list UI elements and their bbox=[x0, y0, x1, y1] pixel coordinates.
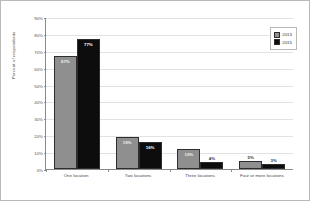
x-tick-mark bbox=[231, 169, 232, 172]
bar-value-label: 77% bbox=[84, 42, 93, 47]
y-tick-label: 20% bbox=[13, 134, 43, 139]
y-tick-label: 30% bbox=[13, 117, 43, 122]
bar-value-label: 4% bbox=[209, 156, 215, 161]
x-tick-label: One location bbox=[45, 173, 107, 178]
bar-value-label: 67% bbox=[61, 59, 70, 64]
x-tick-mark bbox=[170, 169, 171, 172]
bar-value-label: 16% bbox=[146, 145, 155, 150]
y-tick-label: 90% bbox=[13, 16, 43, 21]
legend-swatch-icon bbox=[274, 32, 280, 38]
bar-2015-3: 4% bbox=[200, 162, 223, 169]
legend-item[interactable]: 2015 bbox=[274, 39, 292, 45]
x-axis-labels: One locationTwo locationsThree locations… bbox=[45, 173, 293, 178]
bar-group: 19%16% bbox=[108, 18, 170, 169]
legend-label: 2013 bbox=[282, 32, 292, 37]
bar-value-label: 5% bbox=[247, 155, 253, 160]
x-tick-label: Three locations bbox=[169, 173, 231, 178]
y-tick-label: 70% bbox=[13, 49, 43, 54]
bar-value-label: 3% bbox=[270, 158, 276, 163]
bar-2015-2: 16% bbox=[139, 142, 162, 169]
x-tick-label: Two locations bbox=[107, 173, 169, 178]
y-tick-label: 60% bbox=[13, 66, 43, 71]
bar-groups: 67%77%19%16%12%4%5%3% bbox=[46, 18, 293, 169]
bar-2013-4: 5% bbox=[239, 161, 262, 169]
bar-group: 67%77% bbox=[46, 18, 108, 169]
x-tick-mark bbox=[46, 169, 47, 172]
bar-2013-2: 19% bbox=[116, 137, 139, 169]
bar-chart: Percent of respondents 0%10%20%30%40%50%… bbox=[0, 0, 310, 201]
y-tick-label: 50% bbox=[13, 83, 43, 88]
bar-2015-4: 3% bbox=[262, 164, 285, 169]
bar-value-label: 12% bbox=[184, 152, 193, 157]
y-tick-label: 10% bbox=[13, 151, 43, 156]
x-tick-label: Four or more locations bbox=[231, 173, 293, 178]
y-tick-label: 80% bbox=[13, 32, 43, 37]
y-tick-label: 40% bbox=[13, 100, 43, 105]
bar-value-label: 19% bbox=[123, 140, 132, 145]
y-tick-label: 0% bbox=[13, 168, 43, 173]
bar-2013-3: 12% bbox=[177, 149, 200, 169]
legend-label: 2015 bbox=[282, 40, 292, 45]
chart-legend: 20132015 bbox=[270, 27, 297, 50]
bar-2015-1: 77% bbox=[77, 39, 100, 169]
bar-group: 12%4% bbox=[170, 18, 232, 169]
x-tick-mark bbox=[108, 169, 109, 172]
legend-swatch-icon bbox=[274, 39, 280, 45]
legend-item[interactable]: 2013 bbox=[274, 32, 292, 38]
bar-2013-1: 67% bbox=[54, 56, 77, 169]
plot-area: 0%10%20%30%40%50%60%70%80%90% 67%77%19%1… bbox=[45, 18, 293, 170]
